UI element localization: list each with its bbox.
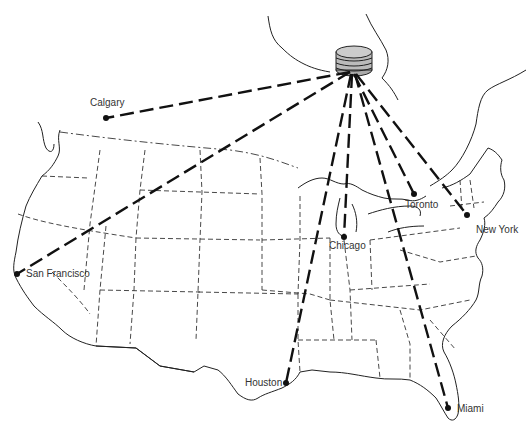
canada-river-left [268,16,330,72]
puget-sound [38,122,54,151]
mexico-border [96,346,194,372]
city-label-toronto: Toronto [405,199,438,210]
state-borders [18,150,484,380]
city-dot-calgary [103,115,109,121]
city-dot-toronto [411,191,417,197]
st-lawrence [430,70,526,186]
satellite-icon [336,46,372,76]
city-dot-houston [283,380,289,386]
city-label-san-francisco: San Francisco [26,268,90,279]
city-dot-miami [445,405,451,411]
city-markers [14,115,470,411]
city-dot-san-francisco [14,271,20,277]
city-label-calgary: Calgary [90,97,124,108]
city-label-chicago: Chicago [329,240,366,251]
city-label-houston: Houston [245,377,282,388]
us-satellite-map [0,0,532,440]
city-label-new-york: New York [476,224,518,235]
canada-border [60,132,298,168]
city-dot-new-york [464,212,470,218]
city-label-miami: Miami [457,403,484,414]
